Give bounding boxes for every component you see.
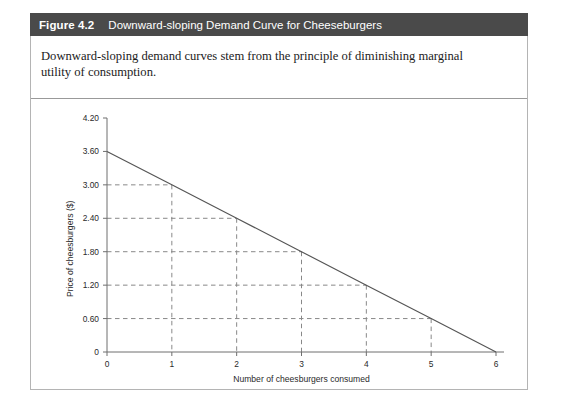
y-tick-label: 3.60 [69, 146, 99, 156]
figure-number: Figure 4.2 [39, 19, 94, 31]
x-axis-title: Number of cheesburgers consumed [107, 374, 496, 384]
figure-title: Downward-sloping Demand Curve for Cheese… [108, 19, 382, 31]
y-tick-label: 0 [69, 347, 99, 357]
x-tick-label: 3 [287, 359, 317, 369]
figure-header-bar: Figure 4.2 Downward-sloping Demand Curve… [30, 13, 528, 36]
demand-curve-plot [30, 99, 528, 390]
chart-area: 4.203.603.002.401.801.200.6000123456 Pri… [30, 99, 528, 390]
y-tick-label: 0.60 [69, 314, 99, 324]
x-tick-label: 6 [481, 359, 511, 369]
x-tick-label: 5 [416, 359, 446, 369]
x-tick-label: 4 [351, 359, 381, 369]
axes [103, 118, 504, 356]
y-tick-label: 4.20 [69, 113, 99, 123]
grid-lines [107, 185, 431, 352]
x-tick-label: 2 [222, 359, 252, 369]
y-axis-title: Price of cheesburgers ($) [65, 201, 75, 297]
y-tick-label: 3.00 [69, 180, 99, 190]
figure-caption: Downward-sloping demand curves stem from… [41, 48, 496, 80]
x-tick-label: 0 [92, 359, 122, 369]
x-tick-label: 1 [157, 359, 187, 369]
